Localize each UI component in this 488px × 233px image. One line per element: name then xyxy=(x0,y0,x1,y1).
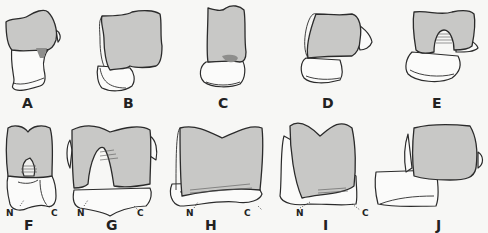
annotation-i-n: N xyxy=(296,208,304,218)
panel-label-j: J xyxy=(435,217,441,233)
panel-f-drawing xyxy=(7,126,57,210)
annotation-f-n: N xyxy=(6,208,14,218)
panel-label-e: E xyxy=(432,95,442,111)
panel-label-i: I xyxy=(323,217,328,233)
panel-label-d: D xyxy=(322,95,334,111)
panel-c-drawing xyxy=(200,6,246,87)
panel-label-a: A xyxy=(22,95,33,111)
panel-j-drawing xyxy=(375,125,482,207)
panel-label-h: H xyxy=(205,217,217,233)
panel-d-drawing xyxy=(301,14,372,83)
panel-label-g: G xyxy=(106,217,118,233)
annotation-i-c: C xyxy=(362,208,369,218)
panel-b-drawing xyxy=(97,11,162,91)
panel-h-drawing xyxy=(170,127,262,210)
panel-label-c: C xyxy=(218,95,228,111)
annotation-f-c: C xyxy=(51,208,58,218)
annotation-g-n: N xyxy=(77,208,85,218)
panel-g-drawing xyxy=(67,126,157,216)
annotation-h-c: C xyxy=(244,208,251,218)
panel-i-drawing xyxy=(280,123,360,210)
annotation-h-n: N xyxy=(186,208,194,218)
panel-label-b: B xyxy=(123,95,134,111)
panel-label-f: F xyxy=(24,217,34,233)
talus-comparison-figure: A B C D E N C F xyxy=(0,0,488,233)
annotation-g-c: C xyxy=(137,208,144,218)
panel-a-drawing xyxy=(6,10,60,90)
panel-e-drawing xyxy=(406,11,478,82)
